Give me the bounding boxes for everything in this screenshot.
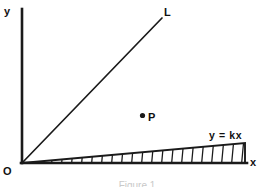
y-axis-label: y: [4, 6, 10, 17]
ray-l-line: [22, 18, 162, 163]
point-p-label: P: [148, 112, 156, 123]
figure-drawing: [0, 0, 274, 187]
x-axis-label: x: [250, 157, 256, 168]
point-p-dot: [140, 113, 145, 118]
origin-label: O: [3, 166, 12, 177]
boundary-equation-label: y = kx: [209, 130, 242, 141]
figure-container: y x O L P y = kx Figure 1: [0, 0, 274, 187]
ray-l-label: L: [164, 7, 171, 18]
wedge-hatching: [31, 138, 244, 170]
figure-caption: Figure 1: [0, 180, 274, 187]
